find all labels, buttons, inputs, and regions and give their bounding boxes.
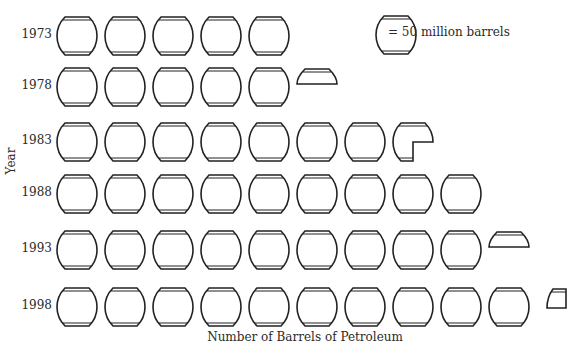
barrel-icon bbox=[296, 228, 338, 276]
barrel-icon bbox=[344, 120, 386, 168]
barrel-icon bbox=[248, 228, 290, 276]
barrel-icon bbox=[344, 172, 386, 220]
barrel-icon bbox=[344, 285, 386, 333]
year-label: 1998 bbox=[14, 298, 52, 312]
y-axis-label: Year bbox=[4, 146, 18, 176]
barrel-icon bbox=[152, 14, 194, 62]
barrel-icon bbox=[296, 120, 338, 168]
partial-barrel-icon bbox=[546, 286, 568, 314]
barrel-icon bbox=[56, 228, 98, 276]
barrel-icon bbox=[104, 14, 146, 62]
barrel-icon bbox=[392, 228, 434, 276]
barrel-icon bbox=[200, 14, 242, 62]
barrel-icon bbox=[104, 172, 146, 220]
partial-barrel-icon bbox=[488, 229, 530, 253]
barrel-icon bbox=[200, 285, 242, 333]
chart-row-1988: 1988 bbox=[0, 172, 570, 216]
barrel-icon bbox=[488, 285, 530, 333]
barrel-icon bbox=[344, 228, 386, 276]
barrel-icon bbox=[56, 65, 98, 113]
chart-row-1978: 1978 bbox=[0, 65, 570, 109]
barrel-icon bbox=[104, 228, 146, 276]
barrel-icon bbox=[392, 285, 434, 333]
barrel-icon bbox=[248, 285, 290, 333]
chart-row-1983: 1983 bbox=[0, 120, 570, 164]
barrel-icon bbox=[104, 65, 146, 113]
barrel-icon bbox=[248, 120, 290, 168]
year-label: 1973 bbox=[14, 27, 52, 41]
year-label: 1993 bbox=[14, 241, 52, 255]
year-label: 1983 bbox=[14, 133, 52, 147]
x-axis-label: Number of Barrels of Petroleum bbox=[0, 330, 570, 344]
barrel-icon bbox=[440, 285, 482, 333]
legend-text: = 50 million barrels bbox=[388, 25, 510, 39]
barrel-icon bbox=[296, 172, 338, 220]
barrel-icon bbox=[56, 14, 98, 62]
barrel-icon bbox=[296, 285, 338, 333]
partial-barrel-icon bbox=[392, 120, 434, 168]
barrel-icon bbox=[248, 172, 290, 220]
barrel-icon bbox=[200, 65, 242, 113]
barrel-icon bbox=[248, 65, 290, 113]
barrel-icon bbox=[152, 228, 194, 276]
barrel-icon bbox=[152, 65, 194, 113]
barrel-icon bbox=[440, 172, 482, 220]
barrel-icon bbox=[200, 172, 242, 220]
barrel-icon bbox=[200, 120, 242, 168]
barrel-icon bbox=[104, 120, 146, 168]
barrel-icon bbox=[392, 172, 434, 220]
barrel-icon bbox=[440, 228, 482, 276]
barrel-icon bbox=[152, 120, 194, 168]
year-label: 1978 bbox=[14, 78, 52, 92]
partial-barrel-icon bbox=[296, 66, 338, 90]
chart-row-1993: 1993 bbox=[0, 228, 570, 272]
barrel-icon bbox=[56, 172, 98, 220]
barrel-icon bbox=[152, 285, 194, 333]
chart-row-1998: 1998 bbox=[0, 285, 570, 329]
barrel-icon bbox=[248, 14, 290, 62]
barrel-icon bbox=[56, 285, 98, 333]
barrel-icon bbox=[104, 285, 146, 333]
barrel-icon bbox=[200, 228, 242, 276]
barrel-icon bbox=[56, 120, 98, 168]
barrel-icon bbox=[152, 172, 194, 220]
year-label: 1988 bbox=[14, 185, 52, 199]
